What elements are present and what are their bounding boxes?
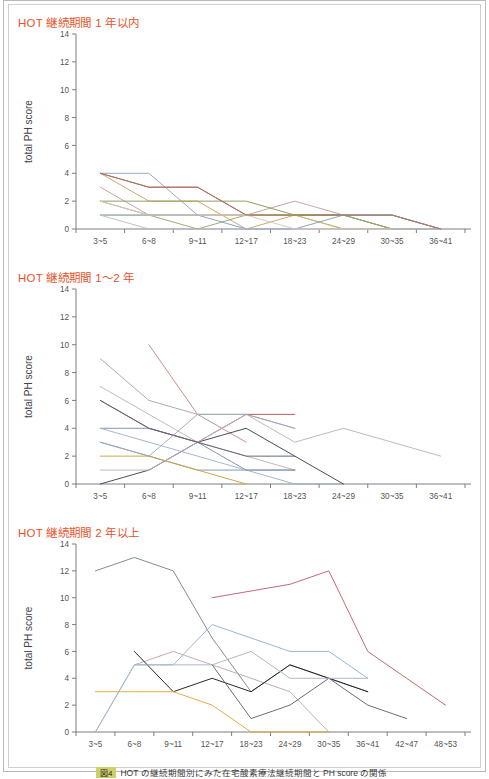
svg-text:total PH score: total PH score	[23, 355, 34, 418]
chart-3-plot: 02468101214total PH score3~56~89~1112~17…	[10, 516, 479, 764]
svg-text:8: 8	[64, 369, 69, 378]
svg-text:12: 12	[60, 58, 70, 67]
svg-text:14: 14	[60, 30, 70, 39]
svg-text:12: 12	[60, 567, 70, 576]
svg-text:（カ月）: （カ月）	[477, 237, 479, 246]
svg-text:8: 8	[64, 114, 69, 123]
svg-text:2: 2	[64, 197, 69, 206]
svg-text:4: 4	[64, 424, 69, 433]
chart-1-plot: 02468101214total PH score3~56~89~1112~17…	[10, 6, 479, 261]
svg-text:6~8: 6~8	[142, 237, 156, 246]
chart-panel-1: HOT 継続期間 1 年以内 02468101214total PH score…	[10, 6, 479, 261]
svg-text:0: 0	[64, 480, 69, 489]
svg-text:6: 6	[64, 397, 69, 406]
chart-panel-2: HOT 継続期間 1～2 年 02468101214total PH score…	[10, 261, 479, 516]
svg-text:14: 14	[60, 285, 70, 294]
svg-text:（カ月）: （カ月）	[477, 740, 479, 749]
svg-text:9~11: 9~11	[164, 740, 182, 749]
svg-text:total PH score: total PH score	[23, 100, 34, 163]
svg-text:24~29: 24~29	[332, 237, 355, 246]
svg-text:10: 10	[60, 594, 70, 603]
svg-text:36~41: 36~41	[429, 237, 452, 246]
svg-text:42~47: 42~47	[395, 740, 418, 749]
svg-text:36~41: 36~41	[356, 740, 379, 749]
figure-caption: 図4HOT の継続期間別にみた在宅酸素療法継続期間と PH score の関係	[96, 766, 486, 778]
svg-text:30~35: 30~35	[381, 492, 404, 501]
svg-text:2: 2	[64, 452, 69, 461]
svg-text:48~53: 48~53	[434, 740, 457, 749]
svg-text:18~23: 18~23	[283, 492, 306, 501]
svg-text:30~35: 30~35	[317, 740, 340, 749]
svg-text:18~23: 18~23	[240, 740, 263, 749]
svg-text:6~8: 6~8	[127, 740, 141, 749]
svg-text:0: 0	[64, 225, 69, 234]
svg-text:18~23: 18~23	[283, 237, 306, 246]
svg-text:12~17: 12~17	[201, 740, 224, 749]
svg-text:0: 0	[64, 728, 69, 737]
svg-text:2: 2	[64, 701, 69, 710]
chart-2-plot: 02468101214total PH score3~56~89~1112~17…	[10, 261, 479, 516]
svg-text:24~29: 24~29	[278, 740, 301, 749]
svg-text:12: 12	[60, 313, 70, 322]
svg-text:6: 6	[64, 142, 69, 151]
svg-text:8: 8	[64, 621, 69, 630]
figure-number-badge: 図4	[96, 767, 116, 778]
svg-text:4: 4	[64, 169, 69, 178]
svg-text:10: 10	[60, 341, 70, 350]
svg-text:36~41: 36~41	[429, 492, 452, 501]
svg-text:（カ月）: （カ月）	[477, 492, 479, 501]
chart-panel-3: HOT 継続期間 2 年以上 02468101214total PH score…	[10, 516, 479, 764]
svg-text:3~5: 3~5	[89, 740, 103, 749]
svg-text:total PH score: total PH score	[23, 606, 34, 669]
svg-text:24~29: 24~29	[332, 492, 355, 501]
svg-text:10: 10	[60, 86, 70, 95]
figure-caption-text: HOT の継続期間別にみた在宅酸素療法継続期間と PH score の関係	[120, 768, 387, 778]
svg-text:6~8: 6~8	[142, 492, 156, 501]
svg-text:12~17: 12~17	[235, 492, 258, 501]
svg-text:3~5: 3~5	[93, 492, 107, 501]
svg-text:3~5: 3~5	[93, 237, 107, 246]
charts-container: HOT 継続期間 1 年以内 02468101214total PH score…	[10, 6, 479, 762]
svg-text:14: 14	[60, 540, 70, 549]
svg-text:9~11: 9~11	[189, 492, 207, 501]
svg-text:9~11: 9~11	[189, 237, 207, 246]
svg-text:6: 6	[64, 648, 69, 657]
svg-text:30~35: 30~35	[381, 237, 404, 246]
svg-text:12~17: 12~17	[235, 237, 258, 246]
svg-text:4: 4	[64, 674, 69, 683]
